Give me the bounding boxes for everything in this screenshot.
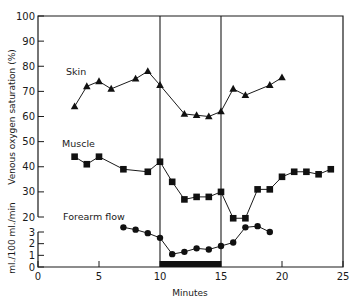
square-marker [181, 196, 188, 203]
square-marker [218, 189, 225, 196]
skin-line [75, 71, 282, 116]
square-marker [315, 171, 322, 178]
forearm-flow-label: Forearm flow [63, 211, 125, 222]
circle-marker [218, 243, 224, 249]
x-axis-title: Minutes [172, 288, 208, 298]
muscle-line [75, 157, 331, 219]
triangle-marker [95, 77, 103, 84]
y-axis-secondary-title: ml./100 ml./min [7, 202, 17, 273]
circle-marker [169, 251, 175, 257]
y-axis-title: Venous oxygen saturation (%) [7, 49, 17, 184]
square-marker [96, 153, 103, 160]
square-marker [279, 174, 286, 181]
chart: 100908070605040302032100510152025 Skin M… [0, 0, 355, 300]
square-marker [267, 186, 274, 193]
square-marker [157, 158, 164, 165]
y-tick-label: 50 [22, 136, 35, 147]
annotations [160, 16, 221, 267]
x-tick-label: 0 [35, 271, 41, 282]
triangle-marker [71, 102, 79, 109]
circle-marker [206, 246, 212, 252]
circle-marker [193, 245, 199, 251]
square-marker [71, 153, 78, 160]
square-marker [254, 186, 261, 193]
square-marker [303, 168, 310, 175]
square-marker [193, 194, 200, 201]
triangle-marker [132, 75, 140, 82]
square-marker [242, 215, 249, 222]
y2-tick-label: 2 [29, 238, 35, 249]
x-tick-label: 5 [96, 271, 102, 282]
circle-marker [157, 235, 163, 241]
skin-label: Skin [66, 66, 86, 77]
triangle-marker [217, 107, 225, 114]
y-tick-label: 30 [22, 186, 35, 197]
y-tick-label: 60 [22, 111, 35, 122]
series [71, 67, 334, 257]
square-marker [230, 215, 237, 222]
y2-tick-label: 1 [29, 250, 35, 261]
circle-marker [181, 249, 187, 255]
y-tick-label: 90 [22, 36, 35, 47]
y-tick-label: 100 [16, 11, 35, 22]
square-marker [84, 161, 91, 168]
square-marker [120, 166, 127, 173]
square-marker [291, 168, 298, 175]
y2-tick-label: 3 [29, 227, 35, 238]
circle-marker [254, 223, 260, 229]
square-marker [206, 194, 213, 201]
x-tick-label: 20 [276, 271, 289, 282]
circle-marker [145, 230, 151, 236]
square-marker [328, 166, 335, 173]
y-tick-label: 40 [22, 161, 35, 172]
x-tick-label: 15 [215, 271, 228, 282]
x-tick-label: 10 [154, 271, 167, 282]
square-marker [169, 179, 176, 186]
triangle-marker [278, 74, 286, 81]
y-tick-label: 80 [22, 61, 35, 72]
x-tick-label: 25 [337, 271, 350, 282]
y-tick-label: 70 [22, 86, 35, 97]
y-tick-label: 20 [22, 212, 35, 223]
muscle-label: Muscle [62, 138, 95, 149]
circle-marker [242, 224, 248, 230]
triangle-marker [144, 67, 152, 74]
stimulus-bar [160, 261, 221, 267]
triangle-marker [229, 85, 237, 92]
circle-marker [230, 239, 236, 245]
triangle-marker [266, 81, 274, 88]
circle-marker [267, 229, 273, 235]
circle-marker [132, 226, 138, 232]
circle-marker [120, 224, 126, 230]
square-marker [145, 168, 152, 175]
